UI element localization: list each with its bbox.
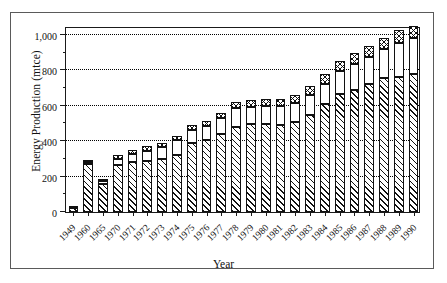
bar-segment-1972-oil-and-gas [142,151,152,161]
y-tick-label-200: 200 [15,172,57,183]
x-tick-1987 [369,212,370,216]
bar-segment-1987-oil-and-gas [364,57,374,84]
bar-segment-1965-oil-and-gas [98,181,108,184]
bar-segment-1990-oil-and-gas [409,38,419,73]
bar-segment-1987-other [364,46,374,57]
x-tick-1981 [280,212,281,216]
bar-1975 [187,125,197,212]
bar-1985 [335,61,345,212]
bar-segment-1986-coal [350,90,360,212]
x-tick-1986 [354,212,355,216]
x-axis-title: Year [0,258,447,270]
y-tick-label-400: 400 [15,137,57,148]
bar-1983 [305,86,315,212]
bar-segment-1983-coal [305,115,315,212]
bar-segment-1978-oil-and-gas [231,108,241,127]
bar-segment-1983-oil-and-gas [305,95,315,114]
bar-segment-1979-coal [246,124,256,212]
bar-segment-1984-coal [320,104,330,212]
bar-segment-1980-coal [261,124,271,212]
plot-inner [66,28,419,212]
bar-1988 [379,38,389,212]
bar-1981 [276,99,286,212]
bar-segment-1970-oil-and-gas [113,159,123,165]
bar-segment-1970-coal [113,165,123,212]
bar-1971 [128,150,138,212]
x-tick-1984 [325,212,326,216]
bar-1960 [83,160,93,212]
bar-segment-1975-other [187,125,197,129]
x-tick-1976 [207,212,208,216]
bar-1989 [394,30,404,212]
bar-1972 [142,146,152,212]
bar-1974 [172,136,182,212]
bar-series-container [66,28,419,212]
bar-segment-1984-oil-and-gas [320,84,330,104]
x-tick-1974 [177,212,178,216]
bar-segment-1973-oil-and-gas [157,147,167,159]
bar-1977 [216,113,226,212]
bar-segment-1980-other [261,99,271,106]
bar-segment-1949-other [69,206,79,208]
bar-segment-1960-oil-and-gas [83,162,93,165]
bar-segment-1978-other [231,102,241,108]
bar-segment-1985-other [335,61,345,71]
bar-segment-1979-oil-and-gas [246,107,256,125]
bar-1978 [231,102,241,212]
bar-segment-1990-coal [409,74,419,212]
x-tick-1980 [266,212,267,216]
x-tick-1989 [399,212,400,216]
bar-segment-1983-other [305,86,315,95]
bar-segment-1981-oil-and-gas [276,106,286,125]
bar-segment-1977-coal [216,134,226,212]
bar-segment-1973-other [157,143,167,147]
bar-segment-1984-other [320,74,330,84]
bar-segment-1974-oil-and-gas [172,140,182,155]
bar-segment-1976-other [202,121,212,126]
bar-segment-1971-coal [128,162,138,212]
bar-1965 [98,179,108,212]
bar-segment-1989-other [394,30,404,42]
bar-segment-1982-oil-and-gas [290,103,300,122]
bar-segment-1960-coal [83,164,93,212]
bar-1986 [350,53,360,212]
y-tick-label-1000: 1,000 [15,30,57,41]
x-tick-1978 [236,212,237,216]
bar-segment-1976-oil-and-gas [202,126,212,140]
x-tick-1949 [73,212,74,216]
bar-segment-1975-coal [187,143,197,212]
bar-segment-1970-other [113,155,123,159]
bar-segment-1989-oil-and-gas [394,43,404,77]
x-tick-1971 [133,212,134,216]
bar-1979 [246,100,256,212]
bar-segment-1987-coal [364,84,374,212]
bar-segment-1988-other [379,38,389,50]
bar-segment-1982-other [290,95,300,103]
bar-segment-1974-other [172,136,182,140]
bar-1980 [261,99,271,212]
bar-1970 [113,155,123,212]
bar-segment-1980-oil-and-gas [261,106,271,125]
bar-segment-1990-other [409,26,419,38]
bar-segment-1986-oil-and-gas [350,64,360,90]
bar-segment-1982-coal [290,122,300,212]
bar-segment-1981-coal [276,125,286,212]
x-tick-1979 [251,212,252,216]
bar-segment-1988-coal [379,78,389,212]
x-tick-1975 [192,212,193,216]
bar-segment-1985-oil-and-gas [335,71,345,94]
bar-segment-1971-oil-and-gas [128,154,138,162]
x-tick-1985 [340,212,341,216]
bar-segment-1972-coal [142,161,152,212]
bar-segment-1978-coal [231,127,241,212]
bar-segment-1976-coal [202,140,212,212]
x-tick-1983 [310,212,311,216]
plot-area [65,27,420,213]
x-tick-1990 [414,212,415,216]
bar-segment-1981-other [276,99,286,106]
y-tick-label-800: 800 [15,66,57,77]
bar-segment-1989-coal [394,77,404,213]
bar-1987 [364,46,374,212]
x-tick-1977 [221,212,222,216]
bar-1949 [69,207,79,212]
